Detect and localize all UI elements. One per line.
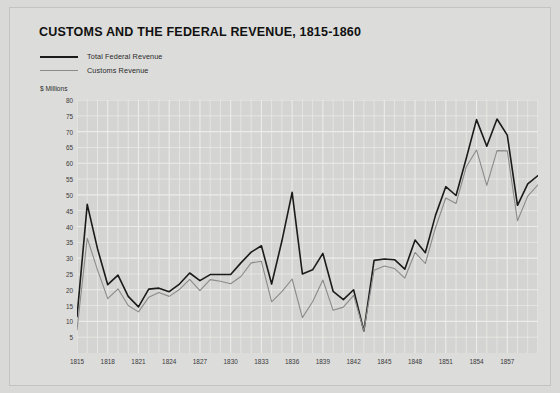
x-axis-tick-label: 1830 <box>224 358 238 365</box>
x-axis-tick-label: 1821 <box>131 358 145 365</box>
y-axis-tick-label: 80 <box>66 97 73 104</box>
x-axis-tick-label: 1824 <box>162 358 176 365</box>
x-axis-tick-label: 1854 <box>469 358 483 365</box>
series-line-customs-revenue <box>77 150 538 331</box>
x-axis-tick-label: 1818 <box>101 358 115 365</box>
y-axis-tick-label: 65 <box>66 144 73 151</box>
x-axis-tick-label: 1827 <box>193 358 207 365</box>
y-axis-tick-label: 75 <box>66 112 73 119</box>
chart-page: CUSTOMS AND THE FEDERAL REVENUE, 1815-18… <box>0 0 560 393</box>
x-axis-tick-labels: 1815181818211824182718301833183618391842… <box>77 358 538 372</box>
y-axis-tick-labels: 5101520253035404550556065707580 <box>48 100 73 353</box>
y-axis-tick-label: 25 <box>66 270 73 277</box>
legend-label-total: Total Federal Revenue <box>87 52 163 61</box>
legend-item-customs-revenue: Customs Revenue <box>40 66 149 75</box>
x-axis-tick-label: 1833 <box>254 358 268 365</box>
data-series <box>77 119 538 331</box>
y-axis-tick-label: 35 <box>66 239 73 246</box>
gridlines <box>77 100 538 353</box>
chart-card: CUSTOMS AND THE FEDERAL REVENUE, 1815-18… <box>9 7 551 386</box>
x-axis-tick-label: 1836 <box>285 358 299 365</box>
y-axis-tick-label: 5 <box>69 334 73 341</box>
y-axis-tick-label: 60 <box>66 160 73 167</box>
y-axis-tick-label: 55 <box>66 176 73 183</box>
y-axis-tick-label: 70 <box>66 128 73 135</box>
series-line-total-federal-revenue <box>77 119 538 331</box>
legend-swatch-customs-icon <box>40 70 78 71</box>
x-axis-tick-label: 1857 <box>500 358 514 365</box>
legend-swatch-total-icon <box>40 56 78 58</box>
x-axis-tick-label: 1839 <box>316 358 330 365</box>
legend-item-total-federal-revenue: Total Federal Revenue <box>40 52 163 61</box>
y-axis-tick-label: 50 <box>66 191 73 198</box>
plot-area <box>77 100 538 353</box>
x-axis-tick-label: 1851 <box>439 358 453 365</box>
legend-label-customs: Customs Revenue <box>87 66 149 75</box>
x-axis-tick-label: 1848 <box>408 358 422 365</box>
y-axis-tick-label: 45 <box>66 207 73 214</box>
y-axis-unit-label: $ Millions <box>40 85 67 92</box>
y-axis-tick-label: 20 <box>66 286 73 293</box>
y-axis-tick-label: 30 <box>66 255 73 262</box>
x-axis-tick-label: 1842 <box>346 358 360 365</box>
y-axis-tick-label: 40 <box>66 223 73 230</box>
y-axis-tick-label: 10 <box>66 318 73 325</box>
y-axis-tick-label: 15 <box>66 302 73 309</box>
chart-lines-svg <box>77 100 538 353</box>
chart-title: CUSTOMS AND THE FEDERAL REVENUE, 1815-18… <box>39 25 361 39</box>
x-axis-tick-label: 1845 <box>377 358 391 365</box>
x-axis-tick-label: 1815 <box>70 358 84 365</box>
